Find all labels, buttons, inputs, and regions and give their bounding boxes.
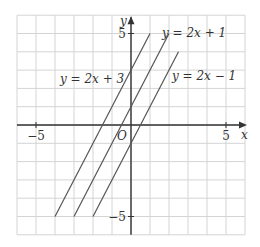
axes: [17, 16, 247, 235]
x-axis-label: x: [241, 128, 248, 142]
y-tick-label: −5: [108, 210, 126, 224]
series-annotation-2: y = 2x − 1: [171, 69, 236, 83]
y-tick-label: 5: [118, 27, 126, 41]
labels: −555−5xyOy = 2x + 3y = 2x + 1y = 2x − 1: [27, 14, 248, 223]
x-tick-label: −5: [27, 129, 45, 143]
line-chart: −555−5xyOy = 2x + 3y = 2x + 1y = 2x − 1: [0, 0, 260, 247]
series-annotation-0: y = 2x + 3: [59, 72, 125, 86]
y-axis-arrow-icon: [128, 16, 135, 24]
y-axis-label: y: [119, 14, 127, 28]
series-annotation-1: y = 2x + 1: [161, 26, 226, 40]
x-tick-label: 5: [222, 129, 230, 143]
origin-label: O: [117, 129, 127, 143]
